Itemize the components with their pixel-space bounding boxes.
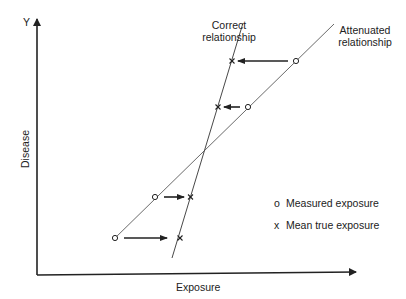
x-axis-label: Exposure [176, 281, 220, 293]
measured-point-2 [152, 194, 157, 199]
attenuated-relationship-label: Attenuated relationship [333, 24, 397, 48]
correct-relationship-line [172, 23, 243, 258]
legend-label: Mean true exposure [286, 219, 379, 231]
measured-point-3 [245, 104, 250, 109]
true-symbol-icon: x [274, 219, 286, 231]
correct-relationship-label: Correct relationship [194, 19, 264, 43]
correct-label-line2: relationship [194, 31, 264, 43]
legend-label: Measured exposure [286, 197, 379, 209]
measured-point-1 [112, 235, 117, 240]
legend-mean-true-exposure: xMean true exposure [274, 219, 379, 231]
measured-symbol-icon: o [274, 197, 286, 209]
y-axis-short-label: Y [23, 16, 30, 28]
measured-point-4 [293, 58, 298, 63]
correct-label-line1: Correct [194, 19, 264, 31]
y-axis-label: Disease [19, 127, 31, 171]
x-axis [37, 272, 356, 275]
attenuated-label-line2: relationship [333, 36, 397, 48]
attenuated-label-line1: Attenuated [333, 24, 397, 36]
legend-measured-exposure: oMeasured exposure [274, 197, 379, 209]
